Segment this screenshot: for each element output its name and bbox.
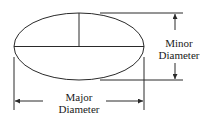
- minor-label-line1: Minor: [156, 37, 202, 49]
- minor-diameter-label: Minor Diameter: [156, 37, 202, 61]
- minor-label-line2: Diameter: [156, 49, 202, 61]
- major-label-line1: Major: [55, 91, 103, 103]
- major-label-line2: Diameter: [55, 103, 103, 115]
- major-diameter-label: Major Diameter: [55, 91, 103, 115]
